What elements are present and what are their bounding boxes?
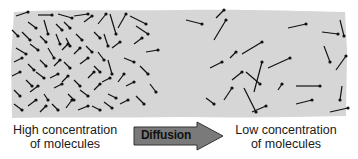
molecule-dot bbox=[50, 13, 53, 16]
molecule-dot bbox=[56, 108, 59, 111]
molecule-dot bbox=[56, 72, 59, 75]
molecule-dot bbox=[328, 60, 331, 63]
molecule-dot bbox=[20, 56, 23, 59]
molecule-dot bbox=[92, 70, 95, 73]
molecule-dot bbox=[58, 58, 61, 61]
high-concentration-label: High concentration of molecules bbox=[4, 123, 126, 151]
molecule-dot bbox=[80, 38, 83, 41]
molecule-dot bbox=[30, 84, 33, 87]
molecule-dot bbox=[318, 84, 321, 87]
molecule-dot bbox=[32, 68, 35, 71]
molecule-dot bbox=[98, 70, 101, 73]
molecule-dot bbox=[336, 32, 339, 35]
molecule-dot bbox=[212, 102, 215, 105]
high-concentration-line2: of molecules bbox=[4, 137, 126, 151]
molecule-dot bbox=[98, 82, 101, 85]
molecule-dot bbox=[124, 12, 127, 15]
molecule-dot bbox=[86, 56, 89, 59]
molecule-dot bbox=[44, 104, 47, 107]
molecule-dot bbox=[86, 12, 89, 15]
molecule-dot bbox=[258, 82, 261, 85]
molecule-dot bbox=[60, 82, 63, 85]
molecule-dot bbox=[34, 26, 37, 29]
molecule-dot bbox=[140, 36, 143, 39]
molecule-dot bbox=[344, 54, 347, 57]
molecule-dot bbox=[126, 98, 129, 101]
molecule-dot bbox=[220, 60, 223, 63]
molecule-panel bbox=[0, 0, 358, 120]
molecule-dot bbox=[132, 80, 135, 83]
molecule-dot bbox=[42, 76, 45, 79]
low-concentration-line1: Low concentration bbox=[222, 123, 350, 137]
molecule-dot bbox=[34, 98, 37, 101]
molecule-dot bbox=[46, 32, 49, 35]
molecule-dot bbox=[36, 84, 39, 87]
molecule-dot bbox=[240, 70, 243, 73]
molecule-dot bbox=[146, 72, 149, 75]
molecule-dot bbox=[36, 48, 39, 51]
molecule-dot bbox=[66, 74, 69, 77]
molecule-dot bbox=[110, 72, 113, 75]
molecule-dot bbox=[58, 42, 61, 45]
molecule-dot bbox=[20, 108, 23, 111]
molecule-dot bbox=[68, 66, 71, 69]
molecule-dot bbox=[90, 50, 93, 53]
molecule-dot bbox=[78, 46, 81, 49]
molecule-dot bbox=[304, 22, 307, 25]
molecule-dot bbox=[86, 104, 89, 107]
molecule-dot bbox=[146, 32, 149, 35]
molecule-dot bbox=[78, 84, 81, 87]
molecule-dot bbox=[122, 72, 125, 75]
molecule-dot bbox=[26, 10, 29, 13]
molecule-dot bbox=[108, 76, 111, 79]
molecule-dot bbox=[234, 50, 237, 53]
molecule-dot bbox=[230, 86, 233, 89]
molecule-dot bbox=[264, 104, 267, 107]
molecule-dot bbox=[310, 98, 313, 101]
molecule-dot bbox=[142, 102, 145, 105]
molecule-dot bbox=[280, 82, 283, 85]
molecule-dot bbox=[260, 60, 263, 63]
molecule-dot bbox=[16, 34, 19, 37]
molecule-dot bbox=[98, 108, 101, 111]
molecule-dot bbox=[154, 90, 157, 93]
molecule-dot bbox=[342, 34, 345, 37]
molecule-dot bbox=[18, 94, 21, 97]
low-concentration-line2: of molecules bbox=[222, 137, 350, 151]
molecule-dot bbox=[60, 28, 63, 31]
molecule-dot bbox=[104, 12, 107, 15]
molecule-dot bbox=[132, 60, 135, 63]
molecule-dot bbox=[66, 42, 69, 45]
molecule-dot bbox=[200, 22, 203, 25]
molecule-dot bbox=[86, 94, 89, 97]
molecule-dot bbox=[156, 48, 159, 51]
molecule-dot bbox=[44, 64, 47, 67]
molecule-dot bbox=[18, 70, 21, 73]
diffusion-label: Diffusion bbox=[137, 128, 195, 142]
molecule-dot bbox=[110, 106, 113, 109]
molecule-dot bbox=[144, 22, 147, 25]
molecule-dot bbox=[102, 58, 105, 61]
high-concentration-line1: High concentration bbox=[4, 123, 126, 137]
molecule-dot bbox=[222, 8, 225, 11]
molecule-dot bbox=[288, 56, 291, 59]
molecule-dot bbox=[28, 38, 31, 41]
molecule-dot bbox=[346, 106, 349, 109]
molecule-dot bbox=[44, 40, 47, 43]
molecule-dot bbox=[90, 14, 93, 17]
molecule-dot bbox=[24, 52, 27, 55]
molecule-dot bbox=[52, 56, 55, 59]
molecule-dot bbox=[70, 98, 73, 101]
molecule-dot bbox=[260, 40, 263, 43]
molecule-dot bbox=[70, 16, 73, 19]
molecule-dot bbox=[114, 96, 117, 99]
molecule-dot bbox=[46, 98, 49, 101]
molecule-dot bbox=[254, 110, 257, 113]
molecule-dot bbox=[338, 98, 341, 101]
molecule-dot bbox=[224, 18, 227, 21]
low-concentration-label: Low concentration of molecules bbox=[222, 123, 350, 151]
molecule-dot bbox=[68, 26, 71, 29]
molecule-dot bbox=[98, 36, 101, 39]
molecule-dot bbox=[114, 32, 117, 35]
molecule-dot bbox=[106, 44, 109, 47]
